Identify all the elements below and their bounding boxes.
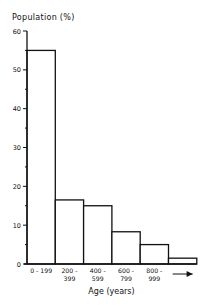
- y-tick-label: 30: [13, 144, 21, 152]
- x-tick-label: 600 -: [118, 267, 134, 274]
- x-tick-label: 400 -: [90, 267, 106, 274]
- x-tick-label: 200 -: [61, 267, 77, 274]
- bar: [84, 206, 112, 264]
- y-tick-label: 50: [13, 66, 21, 74]
- x-tick-label: 399: [64, 275, 76, 282]
- x-axis-title: Age (years): [0, 287, 223, 296]
- bar: [169, 258, 197, 264]
- bar: [140, 245, 168, 264]
- x-tick-label: 599: [92, 275, 104, 282]
- bar: [55, 200, 83, 264]
- histogram-chart: Population (%) 01020304050600 - 199200 -…: [0, 0, 223, 306]
- y-tick-label: 20: [13, 183, 21, 191]
- y-tick-label: 0: [17, 261, 21, 269]
- bar: [112, 232, 140, 264]
- bar: [27, 50, 55, 264]
- y-tick-label: 40: [13, 105, 21, 113]
- y-tick-label: 60: [13, 28, 21, 36]
- x-tick-label: 800 -: [146, 267, 162, 274]
- plot-area: 01020304050600 - 199200 -399400 -599600 …: [0, 0, 223, 306]
- x-tick-label: 799: [120, 275, 132, 282]
- x-tick-label: 0 - 199: [30, 267, 52, 274]
- arrow-head-icon: [187, 271, 193, 277]
- y-tick-label: 10: [13, 222, 21, 230]
- x-tick-label: 999: [148, 275, 160, 282]
